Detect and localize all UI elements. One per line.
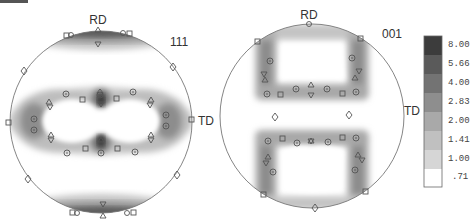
td-label: TD [198, 114, 214, 128]
pole-figure-111: RD TD 111 [6, 6, 214, 219]
legend-swatch-3 [424, 93, 442, 112]
rd-label: RD [89, 13, 107, 27]
legend-label-5: 1.41 [448, 135, 470, 145]
legend-label-0: 8.00 [448, 40, 470, 50]
pole-figure-001: RD TD 001 [220, 8, 420, 212]
rd-label: RD [300, 8, 318, 22]
plane-label-111: 111 [170, 35, 189, 49]
legend-swatch-4 [424, 112, 442, 131]
legend-swatch-5 [424, 131, 442, 150]
crop-artifact [0, 0, 28, 3]
legend-swatch-6 [424, 150, 442, 169]
legend-swatch-1 [424, 55, 442, 74]
legend-label-4: 2.00 [448, 116, 470, 126]
plane-label-001: 001 [382, 27, 402, 41]
legend-label-6: 1.00 [448, 154, 470, 164]
legend-label-3: 2.83 [448, 97, 470, 107]
td-label: TD [404, 104, 420, 118]
legend-label-7: .71 [452, 172, 468, 182]
legend-swatch-7 [424, 169, 442, 187]
legend-label-1: 5.66 [448, 59, 470, 69]
pole-figures: RD TD 111 [0, 0, 470, 219]
legend-swatch-0 [424, 36, 442, 55]
legend-label-2: 4.00 [448, 78, 470, 88]
legend-swatch-2 [424, 74, 442, 93]
intensity-legend: 8.00 5.66 4.00 2.83 2.00 1.41 1.00 .71 [424, 36, 470, 187]
